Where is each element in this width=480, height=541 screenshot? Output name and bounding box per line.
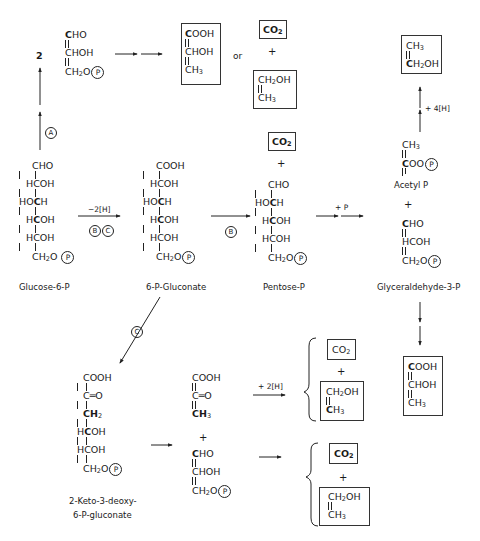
glucose-6-p-molecule: CHO HCOH HOCH HCOH HCOH CH2O P (19, 161, 74, 261)
co2-formula-lower: CO2 (334, 448, 354, 460)
plus-sign: + (199, 432, 207, 443)
lactate-molecule-right: COOH CHOH CH3 (408, 362, 437, 408)
6-p-gluconate-label: 6-P-Gluconate (146, 282, 206, 292)
reduction-4h-label: + 4[H] (425, 104, 450, 113)
acetyl-p-label: Acetyl P (394, 180, 428, 190)
pathway-b-marker: B (224, 221, 237, 240)
plus-sign: + (277, 158, 285, 169)
6-p-gluconate-molecule: COOH HCOH HOCH HCOH HCOH CH2OP (143, 161, 195, 261)
co2-formula-upper: CO2 (332, 344, 350, 356)
plus-sign: + (339, 472, 347, 483)
kdpg-label-line1: 2-Keto-3-deoxy- (69, 496, 137, 506)
ethanol-molecule-top: CH2OH CH3 (258, 75, 291, 103)
ethanol-molecule-upper: CH2OH CH3 (326, 387, 359, 415)
ethanol-molecule-right: CH3 CH2OH (406, 41, 439, 69)
stoichiometric-coefficient: 2 (36, 50, 43, 61)
co2-formula-top: CO2 (263, 24, 283, 36)
kdpg-molecule: COOH C═O CH2 HCOH HCOH CH2OP (77, 373, 122, 473)
pyruvate-molecule: COOH C═O CH3 (192, 373, 221, 419)
ethanol-molecule-lower: CH2OH CH3 (328, 492, 361, 520)
glyceraldehyde-3-p-molecule-lower: CHO CHOH CH2OP (192, 449, 231, 495)
or-label: or (233, 51, 242, 61)
acetyl-p-molecule: CH3 COOP (402, 140, 438, 176)
pentose-p-molecule: CHO HOCH HCOH HCOH CH2OP (255, 180, 307, 262)
pathway-arrows (0, 0, 480, 541)
pentose-p-label: Pentose-P (263, 282, 305, 292)
kdpg-label-line2: 6-P-gluconate (73, 510, 132, 520)
pathway-c-marker: C (130, 321, 143, 340)
lactate-molecule-top: COOH CHOH CH3 (185, 29, 214, 75)
pathway-bc-markers: BC (88, 220, 114, 239)
glucose-6-p-label: Glucose-6-P (19, 282, 70, 292)
plus-sign: + (337, 366, 345, 377)
reduction-2h-label: + 2[H] (258, 382, 283, 391)
glyceraldehyde-3-p-molecule-top: CHO CHOH CH2OP (65, 30, 104, 76)
pathway-a-marker: A (44, 122, 57, 141)
glyceraldehyde-3-p-molecule: CHO HCOH CH2OP (402, 219, 441, 265)
oxidation-label: −2[H] (88, 205, 111, 214)
pathway-b-marker: B (89, 225, 101, 237)
plus-sign: + (268, 46, 276, 57)
co2-formula-pentose: CO2 (272, 136, 292, 148)
glyceraldehyde-3-p-label: Glyceraldehyde-3-P (377, 282, 460, 292)
pathway-c-marker: C (102, 225, 114, 237)
plus-sign: + (404, 199, 412, 210)
phosphate-addition-label: + P (335, 203, 348, 212)
